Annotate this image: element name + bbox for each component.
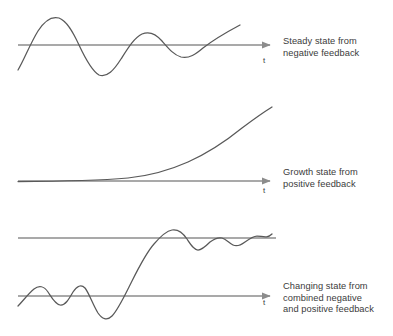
sigmoid-transition-curve xyxy=(18,230,272,319)
axis-label-t-steady: t xyxy=(263,56,265,65)
exponential-growth-curve xyxy=(18,107,272,182)
axis-label-t-growth: t xyxy=(263,186,265,195)
panel-changing-state xyxy=(18,230,276,319)
axis-label-t-changing: t xyxy=(263,298,265,307)
damped-oscillation-curve xyxy=(18,18,240,76)
panel-label-changing-state: Changing state from combined negative an… xyxy=(283,281,374,316)
panel-growth-state xyxy=(18,107,272,182)
panel-label-growth-state: Growth state from positive feedback xyxy=(283,167,358,190)
panel-steady-state xyxy=(18,18,270,76)
panel-label-steady-state: Steady state from negative feedback xyxy=(283,36,359,59)
